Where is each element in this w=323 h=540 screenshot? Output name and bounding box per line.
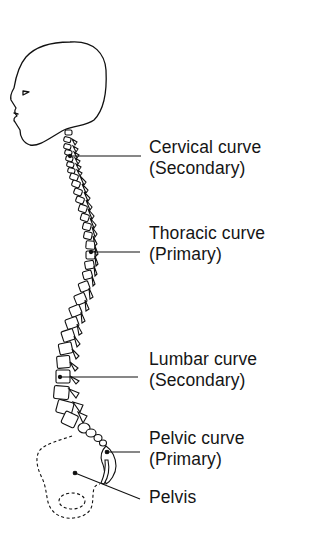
label-pelvic-type: (Primary) [149, 449, 245, 470]
label-pelvic-curve: Pelvic curve (Primary) [149, 428, 245, 470]
label-thoracic-curve: Thoracic curve (Primary) [149, 223, 265, 265]
label-pelvis: Pelvis [149, 487, 196, 508]
label-cervical-title: Cervical curve [149, 137, 261, 158]
label-pelvic-title: Pelvic curve [149, 428, 245, 449]
label-lumbar-type: (Secondary) [149, 370, 257, 391]
label-cervical-curve: Cervical curve (Secondary) [149, 137, 261, 179]
label-lumbar-title: Lumbar curve [149, 349, 257, 370]
eye-icon [23, 91, 29, 95]
lips [14, 113, 18, 114]
label-thoracic-type: (Primary) [149, 244, 265, 265]
label-lumbar-curve: Lumbar curve (Secondary) [149, 349, 257, 391]
obturator-foramen [59, 493, 85, 509]
label-thoracic-title: Thoracic curve [149, 223, 265, 244]
label-cervical-type: (Secondary) [149, 158, 261, 179]
vertebral-column [53, 130, 116, 484]
pelvis-outline [37, 436, 100, 518]
label-pelvis-title: Pelvis [149, 487, 196, 508]
